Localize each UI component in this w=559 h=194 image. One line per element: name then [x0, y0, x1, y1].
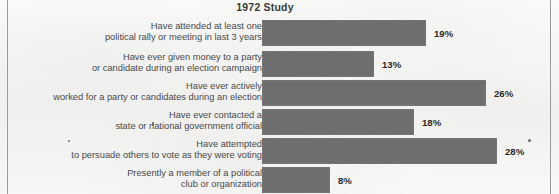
- bar-value-label: 26%: [494, 88, 513, 99]
- bar-value-label: 28%: [505, 146, 524, 157]
- chart-row: Have ever contacted a state or national …: [0, 109, 559, 135]
- chart-figure: 1972 Study Have attended at least one po…: [0, 0, 559, 194]
- bar-track: 28%: [262, 138, 497, 164]
- chart-row: Have attended at least one political ral…: [0, 20, 559, 46]
- bar: [262, 109, 414, 135]
- bar-track: 26%: [262, 80, 486, 106]
- bar-track: 19%: [262, 20, 426, 46]
- bar-category-label: Have attempted to persuade others to vot…: [12, 139, 262, 162]
- bar-value-label: 13%: [382, 59, 401, 70]
- bar-track: 18%: [262, 109, 414, 135]
- bar-value-label: 19%: [434, 28, 453, 39]
- bar-category-label: Presently a member of a political club o…: [12, 168, 262, 191]
- chart-row: Presently a member of a political club o…: [0, 167, 559, 193]
- bar-value-label: 18%: [422, 117, 441, 128]
- bar-value-label: 8%: [338, 175, 352, 186]
- bar: [262, 138, 497, 164]
- bar-category-label: Have ever contacted a state or national …: [12, 110, 262, 133]
- bar-category-label: Have ever given money to a party or cand…: [12, 52, 262, 75]
- bar: [262, 20, 426, 46]
- plot-area: Have attended at least one political ral…: [0, 18, 559, 194]
- bar-category-label: Have attended at least one political ral…: [12, 21, 262, 44]
- bar-track: 13%: [262, 51, 374, 77]
- bar: [262, 167, 330, 193]
- bar: [262, 80, 486, 106]
- chart-title: 1972 Study: [0, 1, 530, 13]
- chart-row: Have attempted to persuade others to vot…: [0, 138, 559, 164]
- chart-row: Have ever actively worked for a party or…: [0, 80, 559, 106]
- bar: [262, 51, 374, 77]
- bar-track: 8%: [262, 167, 330, 193]
- bar-category-label: Have ever actively worked for a party or…: [12, 81, 262, 104]
- chart-row: Have ever given money to a party or cand…: [0, 51, 559, 77]
